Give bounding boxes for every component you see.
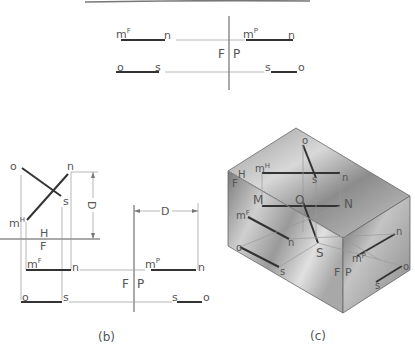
label-mP-b: mP [145,257,160,271]
label-c-s-side: s [375,280,380,291]
label-o-right: o [298,61,305,74]
label-s-profile: s [172,291,178,304]
label-c-H: H [238,169,246,180]
top-figure: mF n mP n o s s o F P [116,16,305,90]
label-c-n-front: n [288,237,294,248]
label-s-front: s [63,291,69,304]
label-n-profile: n [198,261,205,274]
label-o-profile: o [203,291,210,304]
label-n-top: n [67,160,74,173]
caption-b: (b) [98,330,115,344]
label-n-left: n [164,29,171,42]
label-c-s-top: s [312,174,317,185]
label-c-F: F [334,266,340,279]
label-s-top: s [63,195,69,208]
label-c-n-top: n [342,172,348,183]
label-c-P: P [345,266,352,279]
label-c-o-side: o [403,261,409,272]
label-s-right: s [265,61,271,74]
label-P: P [233,47,240,61]
label-mP: mP [243,27,258,41]
label-s-left: s [155,61,161,74]
label-n-front: n [72,261,79,274]
label-c-o-front: o [236,242,242,253]
label-mH: mH [9,216,25,230]
label-o-left: o [117,61,124,74]
label-c-M: M [253,193,263,207]
label-H: H [40,227,48,240]
label-o-front: o [22,291,29,304]
label-F-b: F [122,277,129,291]
label-c-O: O [295,193,304,207]
label-mF: mF [116,27,131,41]
label-o-top: o [10,160,17,173]
label-D-vertical: D [85,201,98,209]
line-os-top [22,168,61,196]
label-c-S: S [316,246,324,260]
top-rule [85,1,310,2]
label-n-right: n [288,29,295,42]
figure-b: D D o n s mH H F mF n mP n o s s o F P (… [0,160,210,344]
label-c-o-top: o [302,135,308,146]
label-c-n-side: n [396,226,402,237]
label-P-b: P [137,277,144,291]
caption-c: (c) [310,329,326,343]
label-c-s-front: s [280,266,285,277]
label-c-F-edge: F [232,178,238,189]
label-F-hf: F [40,240,46,253]
figure-c: o s n mH H F M O N S mF n o s mP n s o F… [228,128,410,343]
label-D-horizontal: D [161,205,169,218]
label-c-N: N [344,197,353,211]
descriptive-geometry-figure: mF n mP n o s s o F P D [0,0,415,349]
label-F: F [218,47,225,61]
label-mF-b: mF [27,257,42,271]
